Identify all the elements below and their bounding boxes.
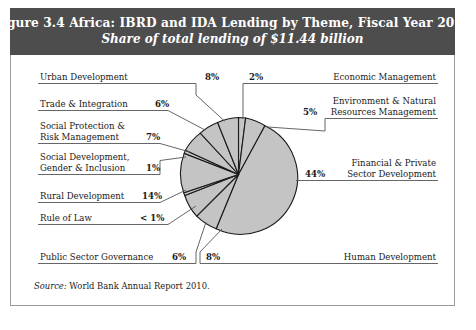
source-text: World Bank Annual Report 2010. xyxy=(67,281,210,291)
callout-label-social-protection: Social Protection & Risk Management xyxy=(40,121,125,142)
source-prefix: Source: xyxy=(34,281,67,291)
figure-title-bar: Figure 3.4 Africa: IBRD and IDA Lending … xyxy=(10,8,455,55)
callout-pct-public-sector-governance: 6% xyxy=(172,252,186,262)
label-text: Economic Management xyxy=(333,72,436,82)
callout-label-trade-integration: Trade & Integration xyxy=(40,99,128,110)
label-text: Public Sector Governance xyxy=(40,252,153,262)
figure-subtitle: Share of total lending of $11.44 billion xyxy=(101,32,363,47)
callout-pct-financial-private-sector: 44% xyxy=(305,169,325,179)
label-text-line1: Environment & Natural xyxy=(333,96,436,106)
callout-pct-rural-development: 14% xyxy=(142,191,162,201)
callout-pct-rule-of-law: < 1% xyxy=(140,213,164,223)
label-text-line2: Risk Management xyxy=(40,132,119,142)
callout-label-economic-management: Economic Management xyxy=(333,72,436,83)
callout-pct-urban-development: 8% xyxy=(205,72,219,82)
callout-label-financial-private-sector: Financial & Private Sector Development xyxy=(347,158,436,179)
callout-label-urban-development: Urban Development xyxy=(40,72,128,83)
figure-panel xyxy=(10,55,455,306)
label-text-line2: Resources Management xyxy=(331,107,436,117)
source-note: Source: World Bank Annual Report 2010. xyxy=(34,281,210,291)
callout-pct-social-development: 1% xyxy=(146,163,160,173)
figure-container: Figure 3.4 Africa: IBRD and IDA Lending … xyxy=(0,0,476,330)
label-text: Human Development xyxy=(344,252,436,262)
label-text-line2: Sector Development xyxy=(347,169,436,179)
figure-title: Figure 3.4 Africa: IBRD and IDA Lending … xyxy=(0,16,472,31)
callout-label-rule-of-law: Rule of Law xyxy=(40,213,92,224)
callout-label-human-development: Human Development xyxy=(344,252,436,263)
label-text-line1: Social Protection & xyxy=(40,121,125,131)
label-text: Trade & Integration xyxy=(40,99,128,109)
callout-label-social-development: Social Development, Gender & Inclusion xyxy=(40,152,130,173)
callout-pct-economic-management: 2% xyxy=(249,72,263,82)
label-text-line1: Social Development, xyxy=(40,152,130,162)
callout-label-rural-development: Rural Development xyxy=(40,191,124,202)
callout-label-public-sector-governance: Public Sector Governance xyxy=(40,252,153,263)
label-text: Urban Development xyxy=(40,72,128,82)
callout-pct-environment-natural-res: 5% xyxy=(303,107,317,117)
label-text: Rural Development xyxy=(40,191,124,201)
callout-label-environment-natural-res: Environment & Natural Resources Manageme… xyxy=(331,96,436,117)
callout-pct-social-protection: 7% xyxy=(146,132,160,142)
callout-pct-human-development: 8% xyxy=(206,252,220,262)
label-text-line2: Gender & Inclusion xyxy=(40,163,125,173)
label-text: Rule of Law xyxy=(40,213,92,223)
label-text-line1: Financial & Private xyxy=(351,158,436,168)
callout-pct-trade-integration: 6% xyxy=(155,99,169,109)
